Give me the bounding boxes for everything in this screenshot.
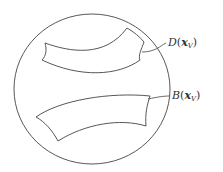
leader-line-b	[148, 96, 170, 99]
diagram-canvas	[0, 0, 223, 172]
label-d-letter: D	[168, 36, 177, 49]
label-b-letter: B	[172, 89, 180, 102]
region-d-shape	[42, 28, 144, 73]
label-b-x-v: B(xV)	[172, 89, 200, 103]
label-d-x-v: D(xV)	[168, 36, 197, 50]
label-d-close: )	[193, 36, 197, 49]
leader-line-d	[142, 43, 166, 52]
outer-circle	[14, 14, 170, 164]
label-b-close: )	[196, 89, 200, 102]
region-b-shape	[36, 95, 150, 141]
